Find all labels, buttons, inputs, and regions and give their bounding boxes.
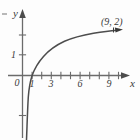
- x-axis-label: x: [130, 78, 135, 89]
- y-axis-arrowhead: [19, 9, 26, 18]
- x-tick-label-9: 9: [104, 79, 114, 89]
- x-tick-label-1: 1: [27, 79, 37, 89]
- x-tick-label-6: 6: [75, 79, 85, 89]
- curve-end-arrowhead: [115, 28, 123, 33]
- y-tick-label-1: 1: [9, 50, 18, 60]
- x-tick-label-3: 3: [46, 79, 56, 89]
- x-axis-arrowhead: [121, 72, 130, 79]
- origin-label: 0: [12, 78, 22, 88]
- scan-artifact-speck: [2, 13, 7, 15]
- graph-figure: y x 0 1 3 6 9 1 (9, 2): [0, 0, 140, 140]
- y-axis-label: y: [13, 8, 18, 19]
- point-annotation-label: (9, 2): [101, 17, 123, 27]
